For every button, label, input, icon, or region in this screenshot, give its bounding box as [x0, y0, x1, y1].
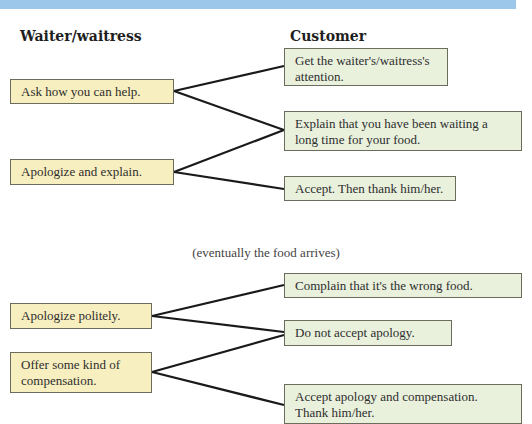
waiter-header: Waiter/waitress: [20, 28, 142, 44]
waiter-option-offer-compensation: Offer some kind of compensation.: [10, 352, 152, 393]
top-banner: [0, 0, 516, 9]
waiter-option-ask-help: Ask how you can help.: [10, 79, 174, 104]
customer-option-accept-compensation: Accept apology and compensation. Thank h…: [284, 384, 522, 424]
waiter-option-apologize-politely: Apologize politely.: [10, 303, 152, 329]
customer-header: Customer: [290, 28, 366, 44]
customer-option-get-attention: Get the waiter's/waitress's attention.: [284, 48, 448, 86]
customer-option-reject-apology: Do not accept apology.: [284, 320, 452, 346]
customer-option-complain-wrong-food: Complain that it's the wrong food.: [284, 273, 522, 298]
transition-caption: (eventually the food arrives): [0, 245, 532, 261]
waiter-option-apologize-explain: Apologize and explain.: [10, 159, 174, 185]
customer-option-accept-thank: Accept. Then thank him/her.: [284, 176, 456, 201]
customer-option-explain-waiting: Explain that you have been waiting a lon…: [284, 111, 522, 151]
